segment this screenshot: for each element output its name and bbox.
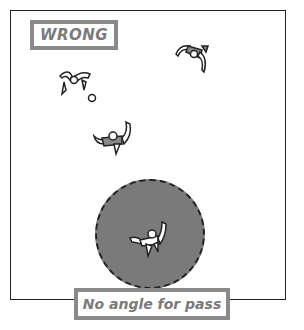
defender-player-icon: [174, 36, 216, 74]
caption-label: No angle for pass: [74, 288, 230, 320]
ball-icon: [87, 93, 97, 103]
defender-player-icon: [92, 120, 134, 156]
wrong-label: WRONG: [30, 20, 118, 50]
attacker-player-icon: [128, 220, 172, 258]
